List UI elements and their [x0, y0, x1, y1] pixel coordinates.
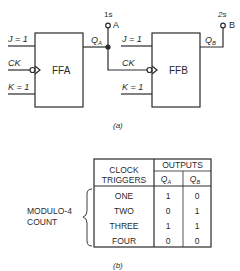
row-qa: 0 [166, 206, 171, 216]
row-qb: 1 [195, 221, 200, 231]
header-qa: QA [161, 174, 172, 185]
terminal-a-icon [106, 23, 111, 28]
ffb-qb-label: QB [205, 35, 216, 46]
truth-table-text: CLOCK TRIGGERS OUTPUTS QA QB ONE 1 0 TWO… [27, 160, 203, 270]
terminal-b-weight: 2s [217, 10, 226, 19]
brace-label-line2: COUNT [27, 217, 57, 227]
ffb-k-label: K = 1 [122, 82, 143, 92]
table-row: FOUR 0 0 [112, 236, 200, 246]
row-qa: 0 [166, 236, 171, 246]
ffa-k-label: K = 1 [8, 82, 29, 92]
header-triggers: TRIGGERS [102, 175, 147, 185]
row-qb: 1 [195, 206, 200, 216]
table-row: TWO 0 1 [114, 206, 200, 216]
terminal-b-label: B [229, 20, 235, 30]
ffb-ck-label: CK [122, 58, 135, 68]
ffa-ck-label: CK [8, 58, 21, 68]
figure-b-caption: (b) [113, 261, 123, 270]
ffb-label: FFB [169, 65, 188, 76]
row-qb: 0 [195, 236, 200, 246]
row-trigger: ONE [115, 191, 134, 201]
terminal-a-weight: 1s [104, 10, 112, 19]
ffb-clock-triangle-icon [152, 66, 157, 74]
figure-a-circuit [8, 23, 225, 107]
row-trigger: THREE [110, 221, 139, 231]
ffb-clock-bubble-icon [147, 68, 152, 73]
table-row: ONE 1 0 [115, 191, 200, 201]
ffa-label: FFA [52, 65, 71, 76]
header-clock: CLOCK [109, 165, 139, 175]
ffa-qa-label: QA [91, 35, 102, 46]
table-row: THREE 1 1 [110, 221, 200, 231]
ffb-j-label: J = 1 [121, 34, 142, 44]
ffa-clock-bubble-icon [30, 68, 35, 73]
ffa-clock-triangle-icon [35, 66, 40, 74]
terminal-a-label: A [113, 20, 119, 30]
figure-a-caption: (a) [113, 121, 123, 130]
header-outputs: OUTPUTS [162, 160, 203, 170]
modulo-4-counter-figure: FFA J = 1 CK K = 1 QA 1s A FFB J = 1 CK … [0, 0, 240, 271]
terminal-b-icon [221, 23, 226, 28]
truth-table [83, 159, 211, 247]
row-trigger: TWO [114, 206, 134, 216]
brace-icon [83, 189, 92, 246]
row-qb: 0 [195, 191, 200, 201]
row-trigger: FOUR [112, 236, 136, 246]
brace-label-line1: MODULO-4 [27, 206, 72, 216]
row-qa: 1 [166, 191, 171, 201]
row-qa: 1 [166, 221, 171, 231]
header-qb: QB [190, 174, 201, 185]
ffa-j-label: J = 1 [7, 34, 28, 44]
